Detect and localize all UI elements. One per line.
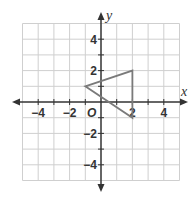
x-axis-label: x — [180, 84, 188, 99]
x-axis-arrow-left-icon — [12, 99, 20, 106]
y-axis-label: y — [104, 8, 113, 23]
x-tick-label: 4 — [160, 106, 167, 120]
y-tick-label: 2 — [90, 64, 97, 78]
y-tick-label: −2 — [83, 127, 97, 141]
x-axis-arrow-right-icon — [180, 99, 188, 106]
y-axis-arrow-up-icon — [98, 12, 105, 20]
y-tick-label: 4 — [90, 33, 97, 47]
y-axis-arrow-down-icon — [98, 184, 105, 192]
y-tick-label: −4 — [83, 158, 97, 172]
origin-label: O — [87, 106, 97, 120]
x-tick-label: −4 — [31, 106, 45, 120]
coordinate-plane: −4−22442−2−4 x y O — [0, 0, 194, 200]
x-tick-label: −2 — [63, 106, 77, 120]
